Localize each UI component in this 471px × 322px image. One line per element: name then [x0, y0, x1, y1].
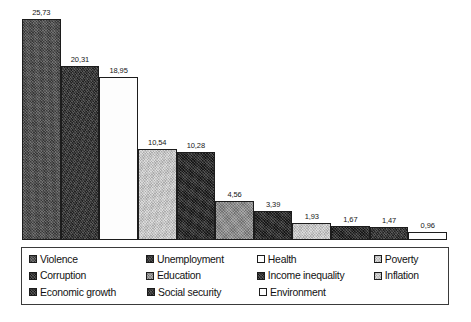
legend-item-corruption[interactable]: Corruption: [26, 270, 143, 281]
bar-value-label: 25,73: [32, 8, 50, 17]
bar-group: 10,28: [177, 8, 216, 240]
legend-item-unemployment[interactable]: Unemployment: [143, 254, 254, 265]
bar-group: 4,56: [215, 8, 254, 240]
bar-value-label: 18,95: [109, 66, 127, 75]
legend-item-income-inequality[interactable]: Income inequality: [254, 270, 371, 281]
legend-item-label: Unemployment: [157, 254, 224, 265]
legend-row: CorruptionEducationIncome inequalityInfl…: [26, 268, 448, 285]
bar-education: [215, 201, 254, 240]
bar-value-label: 20,31: [71, 55, 89, 64]
bar-value-label: 1,67: [343, 215, 357, 224]
bar-group: 1,93: [292, 8, 331, 240]
bar-unemployment: [61, 66, 100, 241]
bar-poverty: [138, 149, 177, 240]
legend-swatch-icon: [29, 288, 37, 296]
bar-economic-growth: [331, 226, 370, 240]
bar-group: 10,54: [138, 8, 177, 240]
legend-item-violence[interactable]: Violence: [26, 254, 143, 265]
bar-value-label: 1,93: [305, 212, 319, 221]
legend-item-health[interactable]: Health: [254, 254, 371, 265]
bar-inflation: [292, 223, 331, 240]
bar-chart: 25,7320,3118,9510,5410,284,563,391,931,6…: [0, 0, 471, 322]
legend-item-label: Education: [157, 270, 201, 281]
legend-swatch-icon: [374, 255, 382, 263]
bar-group: 25,73: [22, 8, 61, 240]
bar-group: 18,95: [99, 8, 138, 240]
legend-swatch-icon: [29, 272, 37, 280]
bar-value-label: 1,47: [382, 216, 396, 225]
legend-row: ViolenceUnemploymentHealthPoverty: [26, 251, 448, 268]
bar-violence: [22, 19, 61, 240]
legend-swatch-icon: [257, 272, 265, 280]
legend-item-label: Inflation: [385, 270, 419, 281]
plot-area: 25,7320,3118,9510,5410,284,563,391,931,6…: [22, 8, 447, 240]
legend-swatch-icon: [257, 255, 265, 263]
bar-group: 0,96: [408, 8, 447, 240]
bar-value-label: 0,96: [421, 221, 435, 230]
legend-item-inflation[interactable]: Inflation: [371, 270, 448, 281]
legend-item-label: Income inequality: [268, 270, 345, 281]
legend-swatch-icon: [147, 288, 155, 296]
legend-item-label: Social security: [158, 287, 221, 298]
bar-value-label: 10,54: [148, 138, 166, 147]
bar-environment: [408, 232, 447, 240]
bar-social-security: [370, 227, 409, 240]
bar-value-label: 10,28: [187, 141, 205, 150]
legend-item-social-security[interactable]: Social security: [144, 287, 256, 298]
bar-group: 20,31: [61, 8, 100, 240]
bar-group: 1,47: [370, 8, 409, 240]
bar-value-label: 4,56: [227, 190, 241, 199]
legend-swatch-icon: [29, 255, 37, 263]
legend-item-label: Environment: [270, 287, 326, 298]
legend-row: Economic growthSocial securityEnvironmen…: [26, 284, 448, 301]
bar-health: [99, 77, 138, 240]
bar-value-label: 3,39: [266, 200, 280, 209]
legend-item-label: Health: [268, 254, 297, 265]
bar-income-inequality: [254, 211, 293, 240]
legend-item-poverty[interactable]: Poverty: [371, 254, 448, 265]
legend-swatch-icon: [146, 272, 154, 280]
legend-item-label: Violence: [40, 254, 78, 265]
legend-swatch-icon: [146, 255, 154, 263]
legend-item-economic-growth[interactable]: Economic growth: [26, 287, 144, 298]
bar-group: 3,39: [254, 8, 293, 240]
legend-item-label: Economic growth: [40, 287, 116, 298]
chart-legend: ViolenceUnemploymentHealthPovertyCorrupt…: [21, 247, 449, 305]
legend-swatch-icon: [259, 288, 267, 296]
legend-item-education[interactable]: Education: [143, 270, 254, 281]
legend-item-environment[interactable]: Environment: [256, 287, 374, 298]
legend-item-label: Corruption: [40, 270, 86, 281]
bar-corruption: [177, 152, 216, 240]
legend-swatch-icon: [374, 272, 382, 280]
bar-group: 1,67: [331, 8, 370, 240]
legend-item-label: Poverty: [385, 254, 418, 265]
